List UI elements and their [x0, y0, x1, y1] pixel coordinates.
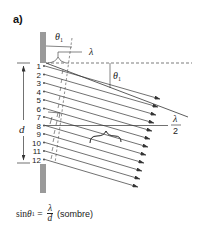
lambda-label: λ [88, 46, 94, 57]
formula-eq: = [35, 209, 45, 219]
formula-lhs: sin [16, 209, 27, 219]
formula-note: (sombre) [57, 209, 93, 219]
lambda-bracket-2 [58, 57, 66, 63]
d-label: d [19, 123, 25, 135]
wavefront-dashed [55, 38, 72, 163]
theta-mid-label: θ1 [113, 70, 121, 82]
formula-den: d [48, 214, 53, 223]
source-label: 12 [32, 156, 41, 165]
half-lambda-den: 2 [173, 126, 178, 136]
half-lambda-bracket [48, 112, 60, 124]
diffraction-diagram: 1 2 3 4 5 6 7 8 9 10 11 12 θ1 λ θ1 d λ 2 [0, 0, 207, 226]
theta-top-arc [46, 46, 72, 47]
theta-top-label: θ1 [55, 31, 63, 43]
lambda-bracket [48, 52, 82, 63]
wall-bottom [40, 164, 46, 193]
source-dots [43, 65, 45, 160]
wavefront-ticks [51, 70, 63, 159]
source-labels: 1 2 3 4 5 6 7 8 9 10 11 12 [32, 62, 41, 165]
formula: sin θ1 = λ d (sombre) [16, 204, 93, 223]
curly-brace [90, 131, 121, 143]
wall-top [40, 32, 46, 63]
half-lambda-num: λ [172, 113, 178, 124]
formula-fraction: λ d [47, 204, 53, 223]
